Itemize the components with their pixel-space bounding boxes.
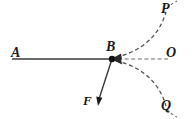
label-force-f: F: [83, 94, 92, 107]
force-line-f: [99, 59, 112, 99]
label-point-o: O: [166, 46, 176, 60]
curve-dashed-bq: [116, 61, 166, 106]
physics-diagram: A B F O P Q: [0, 0, 192, 119]
label-point-p: P: [161, 2, 170, 16]
label-point-q: Q: [161, 99, 171, 113]
label-point-b: B: [106, 40, 115, 54]
vertex-dot-b: [109, 56, 115, 62]
force-arrowhead-icon: [96, 97, 102, 106]
curve-dashed-bp: [116, 12, 166, 57]
label-point-a: A: [11, 46, 20, 60]
